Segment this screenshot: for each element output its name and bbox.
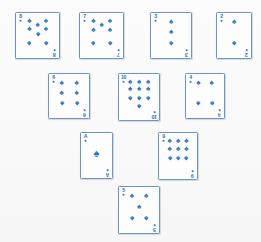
card-pip-field: ♠♠ [222,18,246,53]
card-pip-field: ♠♠♠♠♠♠♠♠ [21,18,54,53]
spade-icon: ♠ [194,99,202,107]
spade-icon: ♠ [34,21,42,29]
spade-icon: ♠ [135,102,143,110]
spade-icon: ♠ [106,26,114,34]
card-pip-field: ♠♠♠♠ [191,79,219,113]
card-pip-field: ♠♠♠♠♠♠♠♠♠♠ [124,79,154,115]
card-pip-field: ♠♠♠♠♠♠♠ [85,18,118,53]
playing-card[interactable]: 10♠10♠♠♠♠♠♠♠♠♠♠♠ [118,73,160,121]
spade-icon: ♠ [174,154,182,162]
spade-icon: ♠ [98,21,106,29]
playing-card[interactable]: 3♠3♠♠♠♠ [150,12,192,59]
playing-card[interactable]: 9♠9♠♠♠♠♠♠♠♠♠♠ [158,132,198,180]
spade-icon: ♠ [128,192,136,200]
spade-icon: ♠ [126,94,134,102]
spade-icon: ♠ [25,39,33,47]
card-pip-field: ♠♠♠♠♠ [124,192,154,228]
spade-icon: ♠ [167,18,175,26]
spade-icon: ♠ [144,94,152,102]
spade-icon: ♠ [182,145,190,153]
spade-icon: ♠ [174,145,182,153]
spade-icon: ♠ [182,154,190,162]
spade-icon: ♠ [58,89,66,97]
spade-icon: ♠ [106,17,114,25]
spade-icon: ♠ [135,94,143,102]
spade-icon: ♠ [58,99,66,107]
spade-icon: ♠ [208,99,216,107]
spade-icon: ♠ [42,25,50,33]
spade-icon: ♠ [73,99,81,107]
spade-icon: ♠ [142,214,150,222]
spade-icon: ♠ [166,145,174,153]
card-pip-field: ♠♠♠♠♠♠ [54,79,84,113]
playing-card[interactable]: 4♠4♠♠♠♠♠ [185,73,225,119]
playing-card[interactable]: 8♠8♠♠♠♠♠♠♠♠♠ [15,12,60,59]
spade-icon: ♠ [34,30,42,38]
card-pip-field: ♠♠♠ [156,18,186,53]
spade-icon: ♠ [230,18,238,26]
spade-icon: ♠ [91,148,102,159]
playing-card[interactable]: 6♠6♠♠♠♠♠♠♠ [48,73,90,119]
playing-card[interactable]: 5♠5♠♠♠♠♠♠ [118,186,160,234]
spade-icon: ♠ [167,28,175,36]
spade-icon: ♠ [89,17,97,25]
spade-icon: ♠ [58,79,66,87]
spade-icon: ♠ [135,85,143,93]
spade-icon: ♠ [25,25,33,33]
spade-icon: ♠ [135,203,143,211]
spade-icon: ♠ [208,79,216,87]
spade-icon: ♠ [42,39,50,47]
spade-icon: ♠ [194,79,202,87]
card-pip-field: ♠ [86,138,107,173]
spade-icon: ♠ [230,39,238,47]
spade-icon: ♠ [144,85,152,93]
spade-icon: ♠ [126,85,134,93]
spade-icon: ♠ [167,39,175,47]
spade-icon: ♠ [106,39,114,47]
spade-icon: ♠ [166,154,174,162]
spade-icon: ♠ [142,192,150,200]
spade-icon: ♠ [128,214,136,222]
spade-icon: ♠ [89,26,97,34]
card-pip-field: ♠♠♠♠♠♠♠♠♠ [164,138,192,174]
playing-card[interactable]: 7♠7♠♠♠♠♠♠♠♠ [79,12,124,59]
spade-icon: ♠ [73,89,81,97]
card-table: 8♠8♠♠♠♠♠♠♠♠♠7♠7♠♠♠♠♠♠♠♠3♠3♠♠♠♠2♠2♠♠♠6♠6♠… [0,0,261,242]
playing-card[interactable]: A♠A♠♠ [80,132,113,179]
spade-icon: ♠ [73,79,81,87]
playing-card[interactable]: 2♠2♠♠♠ [216,12,252,59]
spade-icon: ♠ [89,39,97,47]
